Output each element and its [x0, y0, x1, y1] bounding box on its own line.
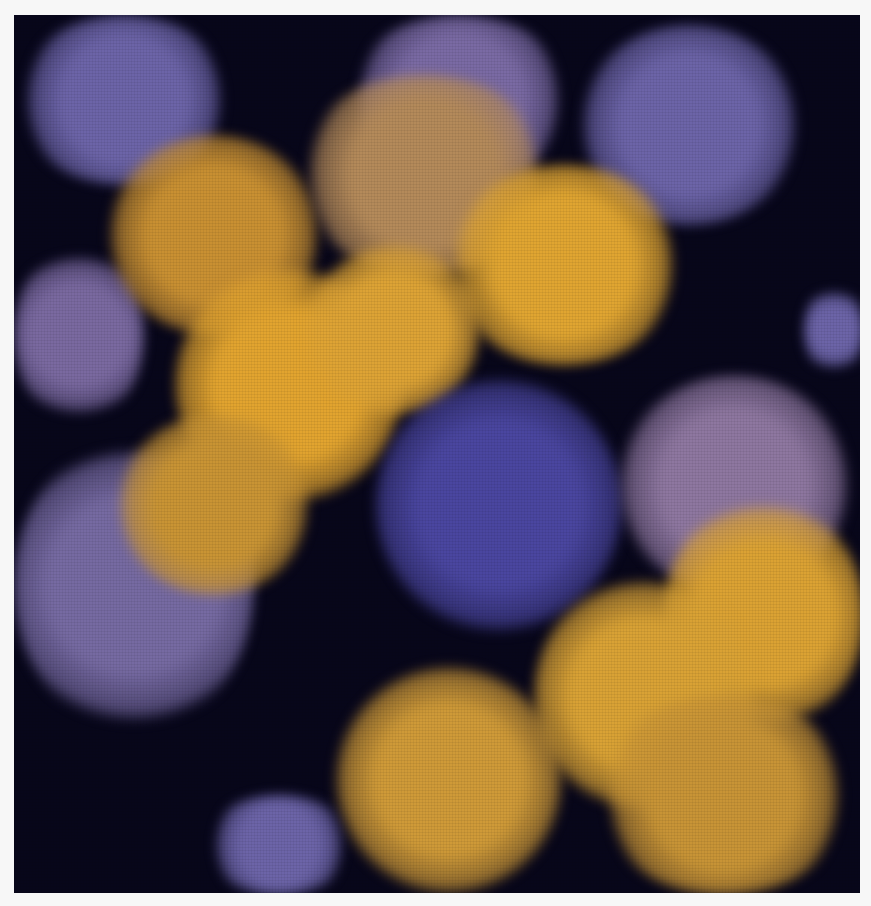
fractal-lobe — [204, 795, 354, 893]
fractal-lobe — [334, 665, 564, 893]
fractal-lobe — [594, 695, 854, 893]
fractal-image — [14, 15, 860, 893]
fractal-lobe — [114, 415, 314, 595]
fractal-lobe — [804, 285, 860, 375]
